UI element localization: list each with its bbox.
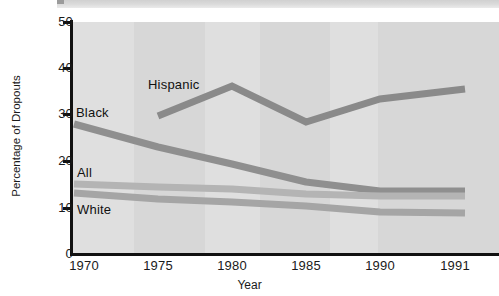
series-lines [0,0,499,296]
series-line-hispanic [158,86,465,122]
chart-figure: 50 40 30 20 10 0 Percentage of Dropouts … [0,0,499,296]
series-line-black [74,124,465,191]
series-label-all: All [77,166,92,179]
series-label-black: Black [76,106,109,119]
series-label-hispanic: Hispanic [148,78,199,91]
series-label-white: White [77,203,111,216]
